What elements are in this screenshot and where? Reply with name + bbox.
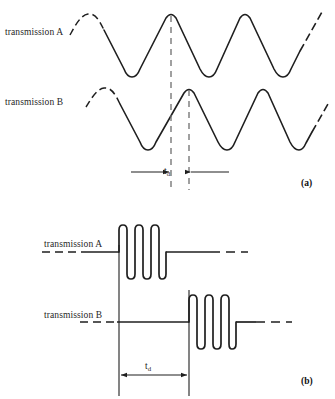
wave-b-trail-dash [312,104,328,132]
panel-a-label-transmission-b: transmission B [5,97,63,107]
wave-b-line [120,90,312,151]
panel-a-label-transmission-a: transmission A [5,27,63,37]
wave-a-line [104,15,300,78]
panel-b-delay-label: td [145,361,151,371]
figure-canvas [0,0,335,399]
wave-a-lead-dash [70,14,104,35]
panel-a-group [70,12,328,190]
wave-a-trail-dash [300,12,322,51]
panel-b-label-transmission-a: transmission A [44,239,102,249]
panel-b-delay-subscript: d [148,365,151,372]
burst-b [189,295,236,349]
panel-a-delay-label: td [164,166,170,176]
panel-a-delay-subscript: d [167,170,170,177]
figure-root: transmission A transmission B td (a) tra… [0,0,335,399]
panel-a-letter: (a) [301,178,312,188]
wave-b-lead-dash [86,88,120,107]
burst-a [119,225,166,279]
panel-b-letter: (b) [301,376,313,386]
panel-b-label-transmission-b: transmission B [44,310,102,320]
